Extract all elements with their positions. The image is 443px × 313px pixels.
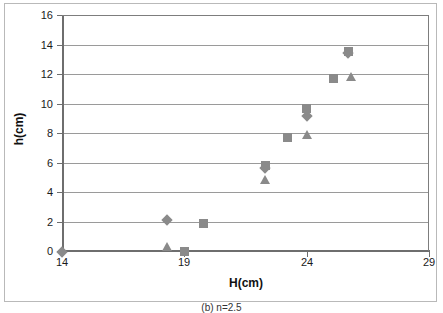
y-tick-label: 2 [5, 217, 53, 228]
data-point-square [199, 219, 208, 228]
x-tick-label: 14 [42, 257, 82, 268]
y-tick-label: 12 [5, 69, 53, 80]
x-tick-label: 24 [287, 257, 327, 268]
y-axis-title: h(cm) [12, 89, 26, 169]
data-point-diamond [162, 214, 173, 225]
chart-frame: 0246810121416 14192429 h(cm) H(cm) [4, 3, 437, 302]
data-point-square [329, 74, 338, 83]
data-point-triangle [302, 130, 312, 139]
data-point-square [344, 47, 353, 56]
data-point-square [261, 161, 270, 170]
y-tick-label: 0 [5, 246, 53, 257]
x-tick-label: 19 [164, 257, 204, 268]
data-point-triangle [162, 242, 172, 251]
y-tick-label: 16 [5, 10, 53, 21]
x-axis-title: H(cm) [62, 276, 430, 290]
data-point-square [180, 247, 189, 256]
figure-container: 0246810121416 14192429 h(cm) H(cm) (b) n… [0, 0, 443, 313]
data-point-square [302, 104, 311, 113]
data-point-triangle [260, 175, 270, 184]
plot-area [62, 15, 429, 251]
y-tick-label: 4 [5, 187, 53, 198]
y-tick-label: 14 [5, 40, 53, 51]
data-point-triangle [346, 72, 356, 81]
x-tick-label: 29 [409, 257, 443, 268]
figure-caption: (b) n=2.5 [0, 302, 443, 313]
data-point-square [283, 133, 292, 142]
